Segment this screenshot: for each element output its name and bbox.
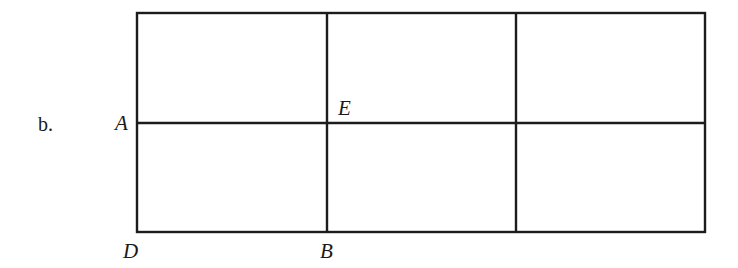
point-label-d: D xyxy=(122,239,138,263)
point-label-a: A xyxy=(113,111,128,135)
part-label: b. xyxy=(38,113,53,135)
point-label-e: E xyxy=(337,96,351,120)
point-label-b: B xyxy=(320,239,333,263)
grid-figure: b. A E D B xyxy=(0,0,738,268)
